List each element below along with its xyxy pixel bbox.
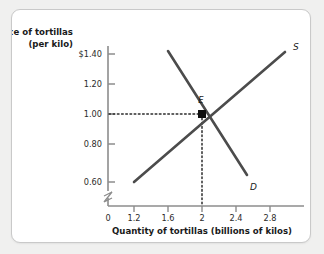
y-axis-break-icon [104, 192, 112, 202]
supply-demand-chart: Price of tortillas (per kilo) $1.40 1.20… [12, 10, 311, 243]
x-tick-label-16: 1.6 [161, 213, 174, 223]
y-axis-ticks: $1.40 1.20 1.00 0.80 0.60 [79, 49, 115, 187]
x-tick-label-28: 2.8 [263, 213, 276, 223]
y-tick-label-140: $1.40 [79, 49, 102, 59]
y-tick-label-100: 1.00 [84, 109, 102, 119]
y-axis-title-line2: (per kilo) [28, 39, 73, 49]
y-axis-title-line1: Price of tortillas [12, 27, 73, 37]
y-tick-label-060: 0.60 [84, 177, 102, 187]
supply-curve-label: S [293, 42, 299, 52]
equilibrium-point-label: E [198, 95, 204, 105]
figure-root: Price of tortillas (per kilo) $1.40 1.20… [0, 0, 324, 254]
equilibrium-point-marker [198, 110, 206, 118]
x-axis-title: Quantity of tortillas (billions of kilos… [112, 226, 292, 236]
x-tick-label-0: 0 [105, 213, 110, 223]
x-tick-label-24: 2.4 [229, 213, 242, 223]
x-axis-ticks: 0 1.2 1.6 2 2.4 2.8 [105, 206, 276, 223]
x-tick-label-2: 2 [199, 213, 204, 223]
x-tick-label-12: 1.2 [127, 213, 140, 223]
y-tick-label-080: 0.80 [84, 139, 102, 149]
y-tick-label-120: 1.20 [84, 79, 102, 89]
demand-curve [168, 51, 247, 175]
demand-curve-label: D [250, 182, 257, 192]
figure-card: Price of tortillas (per kilo) $1.40 1.20… [11, 9, 311, 243]
